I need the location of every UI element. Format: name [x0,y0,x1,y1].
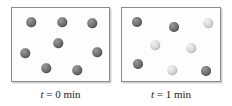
panel-caption-final: t = 1 min [121,86,221,102]
reaction-panel-final [121,7,221,82]
particle-layer-initial [12,8,109,81]
sphere-light [167,65,177,75]
sphere-dark [87,18,97,28]
caption-equals-initial: = [43,88,55,100]
caption-value-final: 1 min [166,88,191,100]
sphere-dark [92,47,102,57]
reaction-panel-initial [11,7,110,82]
sphere-light [186,43,196,53]
sphere-light [203,18,213,28]
sphere-dark [20,48,30,58]
caption-equals-final: = [154,88,166,100]
sphere-dark [169,22,179,32]
sphere-dark [133,59,143,69]
panel-caption-initial: t = 0 min [11,86,110,102]
sphere-dark [201,66,211,76]
particle-layer-final [122,8,220,81]
figure-root: t = 0 min t = 1 min [0,0,232,106]
sphere-dark [72,65,82,75]
sphere-dark [53,38,63,48]
sphere-light [150,40,160,50]
caption-value-initial: 0 min [55,88,80,100]
sphere-dark [57,17,67,27]
sphere-dark [132,17,142,27]
sphere-dark [41,63,51,73]
sphere-dark [26,17,36,27]
